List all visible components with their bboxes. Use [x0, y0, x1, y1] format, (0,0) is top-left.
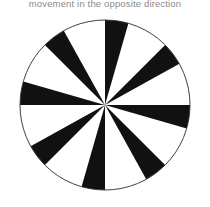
figure-page: movement in the opposite direction [0, 0, 210, 207]
pinwheel-illusion-disc [0, 0, 210, 207]
pinwheel-figure [0, 0, 210, 207]
